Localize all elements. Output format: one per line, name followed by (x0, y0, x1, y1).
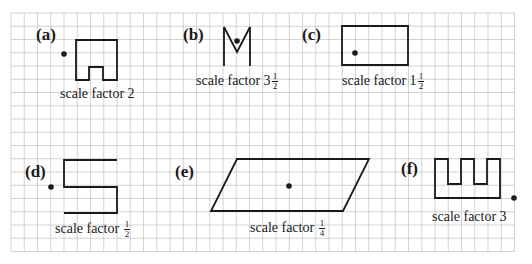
fraction: 14 (319, 219, 326, 238)
shape-b (224, 27, 250, 66)
scale-factor-caption-e: scale factor 14 (250, 219, 325, 238)
fraction: 12 (418, 72, 425, 91)
fraction-denominator: 2 (124, 230, 131, 239)
caption-text: scale factor (55, 221, 119, 236)
caption-text: scale factor 2 (60, 86, 135, 101)
scale-factor-caption-a: scale factor 2 (60, 87, 135, 101)
problem-label-c: (c) (302, 26, 321, 43)
shape-d (48, 160, 117, 213)
scale-factor-caption-b: scale factor 312 (196, 72, 278, 91)
caption-text: scale factor 1 (342, 73, 417, 88)
problem-label-f: (f) (401, 160, 418, 177)
caption-text: scale factor 3 (196, 73, 271, 88)
caption-text: scale factor (250, 220, 314, 235)
centre-of-enlargement-f (511, 195, 517, 201)
caption-text: scale factor 3 (432, 209, 507, 224)
problem-label-d: (d) (25, 163, 46, 180)
fraction-denominator: 2 (272, 82, 279, 91)
shape-f (435, 159, 517, 201)
shape-c (342, 26, 408, 65)
centre-of-enlargement-b (234, 38, 240, 44)
fraction: 12 (272, 72, 279, 91)
fraction: 12 (124, 220, 131, 239)
scale-factor-caption-d: scale factor 12 (55, 220, 130, 239)
scale-factor-caption-f: scale factor 3 (432, 210, 507, 224)
shape-a (61, 40, 117, 80)
fraction-denominator: 2 (418, 82, 425, 91)
centre-of-enlargement-d (48, 184, 54, 190)
centre-of-enlargement-c (352, 50, 358, 56)
problem-label-b: (b) (183, 26, 204, 43)
problem-label-e: (e) (175, 163, 194, 180)
problem-label-a: (a) (36, 26, 56, 43)
centre-of-enlargement-e (286, 183, 292, 189)
centre-of-enlargement-a (61, 51, 67, 57)
scale-factor-caption-c: scale factor 112 (342, 72, 424, 91)
fraction-denominator: 4 (319, 229, 326, 238)
